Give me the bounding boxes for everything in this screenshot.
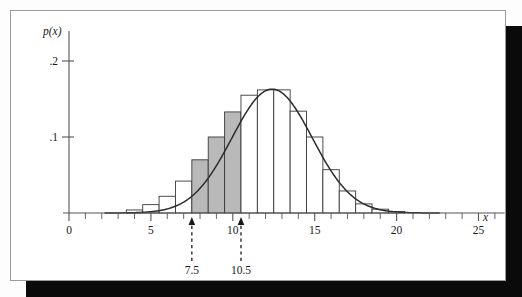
histogram-bar <box>175 181 191 213</box>
x-tick-label: 0 <box>66 224 72 236</box>
boundary-arrowhead <box>238 217 245 225</box>
histogram-bar <box>356 204 372 213</box>
histogram-bar <box>192 160 208 213</box>
probability-histogram-chart: 0510152025.1.2 7.510.5 p(x) x <box>11 11 505 280</box>
y-tick-label: .2 <box>49 55 58 67</box>
screenshot-page: 0510152025.1.2 7.510.5 p(x) x <box>0 0 522 297</box>
histogram-bar <box>339 191 355 213</box>
y-tick-label: .1 <box>49 131 58 143</box>
y-axis-label: p(x) <box>42 25 62 38</box>
x-tick-label: 5 <box>148 224 154 236</box>
x-tick-label: 20 <box>391 224 403 236</box>
boundary-value-label: 7.5 <box>185 264 200 276</box>
histogram-bars <box>126 90 404 213</box>
boundary-markers: 7.510.5 <box>185 217 252 276</box>
plot-surface: 0510152025.1.2 7.510.5 p(x) x <box>11 11 505 280</box>
x-tick-label: 25 <box>473 224 485 236</box>
histogram-bar <box>257 90 273 213</box>
histogram-bar <box>290 111 306 213</box>
histogram-bar <box>274 90 290 213</box>
histogram-bar <box>307 137 323 213</box>
x-axis-label: x <box>482 211 489 223</box>
boundary-value-label: 10.5 <box>231 264 251 276</box>
x-tick-label: 10 <box>227 224 239 236</box>
figure-frame: 0510152025.1.2 7.510.5 p(x) x <box>10 10 506 281</box>
x-tick-label: 15 <box>309 224 321 236</box>
boundary-arrowhead <box>189 217 196 225</box>
histogram-bar <box>241 95 257 213</box>
histogram-bar <box>323 170 339 213</box>
